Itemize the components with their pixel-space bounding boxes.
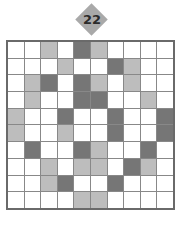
- grid-cell-r4-c3[interactable]: [58, 109, 74, 125]
- grid-cell-r8-c4[interactable]: [74, 176, 90, 192]
- grid-cell-r8-c8[interactable]: [141, 176, 157, 192]
- grid-cell-r8-c1[interactable]: [25, 176, 41, 192]
- grid-cell-r0-c5[interactable]: [91, 42, 107, 58]
- grid-cell-r1-c5[interactable]: [91, 59, 107, 75]
- grid-cell-r3-c4[interactable]: [74, 92, 90, 108]
- grid-cell-r3-c9[interactable]: [157, 92, 173, 108]
- grid-cell-r0-c2[interactable]: [41, 42, 57, 58]
- grid-cell-r8-c6[interactable]: [108, 176, 124, 192]
- grid-cell-r5-c4[interactable]: [74, 125, 90, 141]
- grid-cell-r0-c4[interactable]: [74, 42, 90, 58]
- grid-cell-r8-c9[interactable]: [157, 176, 173, 192]
- grid-cell-r9-c7[interactable]: [124, 192, 140, 208]
- grid-cell-r5-c6[interactable]: [108, 125, 124, 141]
- grid-cell-r8-c3[interactable]: [58, 176, 74, 192]
- grid-cell-r9-c4[interactable]: [74, 192, 90, 208]
- grid-cell-r0-c0[interactable]: [8, 42, 24, 58]
- grid-cell-r9-c9[interactable]: [157, 192, 173, 208]
- grid-cell-r2-c1[interactable]: [25, 75, 41, 91]
- grid-cell-r1-c3[interactable]: [58, 59, 74, 75]
- grid-cell-r4-c2[interactable]: [41, 109, 57, 125]
- grid-cell-r1-c4[interactable]: [74, 59, 90, 75]
- grid-cell-r5-c1[interactable]: [25, 125, 41, 141]
- grid-cell-r6-c5[interactable]: [91, 142, 107, 158]
- grid-cell-r1-c8[interactable]: [141, 59, 157, 75]
- grid-cell-r2-c2[interactable]: [41, 75, 57, 91]
- grid-cell-r5-c3[interactable]: [58, 125, 74, 141]
- grid-cell-r5-c2[interactable]: [41, 125, 57, 141]
- grid-cell-r9-c2[interactable]: [41, 192, 57, 208]
- grid-cell-r4-c0[interactable]: [8, 109, 24, 125]
- grid-cell-r2-c9[interactable]: [157, 75, 173, 91]
- grid-cell-r4-c9[interactable]: [157, 109, 173, 125]
- grid-cell-r7-c0[interactable]: [8, 159, 24, 175]
- grid-cell-r4-c6[interactable]: [108, 109, 124, 125]
- grid-cell-r1-c7[interactable]: [124, 59, 140, 75]
- grid-cell-r3-c1[interactable]: [25, 92, 41, 108]
- grid-cell-r8-c5[interactable]: [91, 176, 107, 192]
- grid-cell-r4-c1[interactable]: [25, 109, 41, 125]
- grid-cell-r0-c7[interactable]: [124, 42, 140, 58]
- grid-cell-r3-c8[interactable]: [141, 92, 157, 108]
- grid-cell-r9-c5[interactable]: [91, 192, 107, 208]
- grid-cell-r4-c8[interactable]: [141, 109, 157, 125]
- grid-cell-r6-c9[interactable]: [157, 142, 173, 158]
- grid-cell-r2-c0[interactable]: [8, 75, 24, 91]
- grid-cell-r4-c4[interactable]: [74, 109, 90, 125]
- grid-cell-r0-c9[interactable]: [157, 42, 173, 58]
- grid-cell-r3-c2[interactable]: [41, 92, 57, 108]
- grid-cell-r7-c3[interactable]: [58, 159, 74, 175]
- grid-cell-r8-c7[interactable]: [124, 176, 140, 192]
- grid-cell-r5-c7[interactable]: [124, 125, 140, 141]
- grid-cell-r7-c8[interactable]: [141, 159, 157, 175]
- grid-cell-r6-c1[interactable]: [25, 142, 41, 158]
- grid-cell-r1-c2[interactable]: [41, 59, 57, 75]
- grid-cell-r2-c3[interactable]: [58, 75, 74, 91]
- grid-cell-r6-c6[interactable]: [108, 142, 124, 158]
- grid-cell-r2-c6[interactable]: [108, 75, 124, 91]
- grid-cell-r0-c8[interactable]: [141, 42, 157, 58]
- grid-cell-r7-c9[interactable]: [157, 159, 173, 175]
- grid-cell-r8-c0[interactable]: [8, 176, 24, 192]
- grid-cell-r5-c5[interactable]: [91, 125, 107, 141]
- grid-cell-r7-c1[interactable]: [25, 159, 41, 175]
- grid-cell-r6-c4[interactable]: [74, 142, 90, 158]
- grid-cell-r9-c8[interactable]: [141, 192, 157, 208]
- grid-cell-r0-c6[interactable]: [108, 42, 124, 58]
- grid-cell-r6-c2[interactable]: [41, 142, 57, 158]
- grid-cell-r1-c1[interactable]: [25, 59, 41, 75]
- grid-cell-r6-c7[interactable]: [124, 142, 140, 158]
- grid-cell-r0-c1[interactable]: [25, 42, 41, 58]
- grid-cell-r9-c0[interactable]: [8, 192, 24, 208]
- grid-cell-r1-c6[interactable]: [108, 59, 124, 75]
- grid-cell-r3-c3[interactable]: [58, 92, 74, 108]
- grid-cell-r8-c2[interactable]: [41, 176, 57, 192]
- grid-cell-r3-c5[interactable]: [91, 92, 107, 108]
- grid-cell-r9-c1[interactable]: [25, 192, 41, 208]
- grid-cell-r7-c6[interactable]: [108, 159, 124, 175]
- grid-cell-r3-c7[interactable]: [124, 92, 140, 108]
- grid-cell-r9-c3[interactable]: [58, 192, 74, 208]
- grid-cell-r2-c4[interactable]: [74, 75, 90, 91]
- grid-cell-r5-c9[interactable]: [157, 125, 173, 141]
- grid-cell-r9-c6[interactable]: [108, 192, 124, 208]
- grid-cell-r1-c9[interactable]: [157, 59, 173, 75]
- grid-cell-r2-c8[interactable]: [141, 75, 157, 91]
- grid-cell-r5-c0[interactable]: [8, 125, 24, 141]
- grid-cell-r7-c7[interactable]: [124, 159, 140, 175]
- grid-cell-r4-c7[interactable]: [124, 109, 140, 125]
- grid-cell-r3-c6[interactable]: [108, 92, 124, 108]
- grid-cell-r3-c0[interactable]: [8, 92, 24, 108]
- grid-cell-r4-c5[interactable]: [91, 109, 107, 125]
- grid-cell-r7-c4[interactable]: [74, 159, 90, 175]
- grid-cell-r6-c3[interactable]: [58, 142, 74, 158]
- grid-cell-r7-c5[interactable]: [91, 159, 107, 175]
- grid-cell-r6-c8[interactable]: [141, 142, 157, 158]
- grid-cell-r2-c7[interactable]: [124, 75, 140, 91]
- grid-cell-r1-c0[interactable]: [8, 59, 24, 75]
- grid-cell-r5-c8[interactable]: [141, 125, 157, 141]
- grid-cell-r6-c0[interactable]: [8, 142, 24, 158]
- grid-cell-r2-c5[interactable]: [91, 75, 107, 91]
- grid-cell-r0-c3[interactable]: [58, 42, 74, 58]
- grid-cell-r7-c2[interactable]: [41, 159, 57, 175]
